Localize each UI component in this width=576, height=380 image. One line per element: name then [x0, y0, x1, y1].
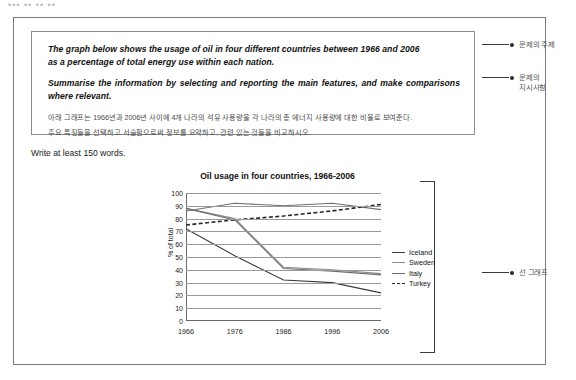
line-chart: Oil usage in four countries, 1966-2006 %…	[150, 171, 412, 361]
bullet-dot-icon	[510, 76, 514, 80]
legend-item-italy: Italy	[392, 268, 435, 279]
prompt-korean-line-2: 주요 특징들을 선택하고 서술함으로써 정보를 요약하고, 관련 있는 것들을 …	[48, 127, 460, 139]
chart-gridline	[186, 206, 381, 207]
chart-y-tick-label: 40	[175, 266, 183, 273]
word-count-note: Write at least 150 words.	[31, 148, 125, 158]
prompt-box: The graph below shows the usage of oil i…	[31, 31, 475, 135]
chart-gridline	[186, 257, 381, 258]
legend-swatch-icon	[392, 249, 405, 255]
prompt-english-line-3: Summarise the information by selecting a…	[48, 77, 460, 102]
chart-gridline	[186, 244, 381, 245]
chart-x-tick-label: 1986	[276, 327, 292, 336]
chart-y-tick-label: 60	[175, 241, 183, 248]
chart-y-tick-label: 10	[175, 305, 183, 312]
leader-line-icon	[482, 272, 509, 273]
legend-item-turkey: Turkey	[392, 279, 435, 290]
chart-y-tick-label: 20	[175, 292, 183, 299]
legend-swatch-icon	[392, 281, 405, 287]
legend-swatch-icon	[392, 260, 405, 266]
chart-y-tick-label: 30	[175, 279, 183, 286]
legend-label: Iceland	[409, 248, 432, 257]
chart-gridline	[186, 219, 381, 220]
chart-plot-area: % of total 01020304050607080901001966197…	[186, 193, 381, 321]
chart-y-tick-label: 80	[175, 215, 183, 222]
chart-gridline	[186, 308, 381, 309]
chart-gridline	[186, 231, 381, 232]
chart-gridline	[186, 270, 381, 271]
chart-y-tick-label: 0	[179, 318, 183, 325]
prompt-korean-line-1: 아래 그래프는 1966년과 2006년 사이에 4개 나라의 석유 사용량을 …	[48, 112, 460, 124]
chart-series-line-top-band	[186, 203, 381, 211]
legend-item-sweden: Sweden	[392, 258, 435, 269]
chart-x-tick-label: 1996	[324, 327, 340, 336]
chart-x-tick-label: 1976	[227, 327, 243, 336]
annotation-line-graph-label: 선 그래프	[519, 268, 548, 278]
chart-y-tick-label: 90	[175, 202, 183, 209]
chart-y-tick-label: 50	[175, 254, 183, 261]
chart-x-tick-label: 2006	[373, 327, 389, 336]
legend-item-iceland: Iceland	[392, 247, 435, 258]
chart-y-tick-label: 70	[175, 228, 183, 235]
leader-line-icon	[482, 44, 509, 45]
annotation-instruction: 문제의 지시사항	[482, 73, 546, 92]
annotation-line-graph: 선 그래프	[482, 268, 548, 278]
prompt-english-line-2: as a percentage of total energy use with…	[48, 56, 460, 69]
chart-y-axis-label: % of total	[167, 228, 174, 257]
chart-gridline	[186, 283, 381, 284]
chart-legend: IcelandSwedenItalyTurkey	[392, 247, 435, 289]
annotation-topic-label: 문제의 주제	[519, 40, 555, 50]
legend-label: Italy	[409, 269, 422, 278]
chart-title: Oil usage in four countries, 1966-2006	[155, 171, 400, 181]
page-header-strip: ••• •• •• ••	[8, 0, 208, 14]
legend-label: Sweden	[409, 258, 435, 267]
bullet-dot-icon	[510, 271, 514, 275]
chart-y-tick-label: 100	[171, 190, 183, 197]
leader-line-icon	[482, 77, 509, 78]
bullet-dot-icon	[510, 43, 514, 47]
legend-label: Turkey	[409, 279, 431, 288]
chart-gridline	[186, 295, 381, 296]
prompt-english-line-1: The graph below shows the usage of oil i…	[48, 43, 460, 56]
chart-gridline	[186, 193, 381, 194]
annotation-instruction-label: 문제의 지시사항	[519, 73, 546, 92]
chart-x-tick-label: 1966	[178, 327, 194, 336]
legend-swatch-icon	[392, 270, 405, 276]
annotation-topic: 문제의 주제	[482, 40, 555, 50]
